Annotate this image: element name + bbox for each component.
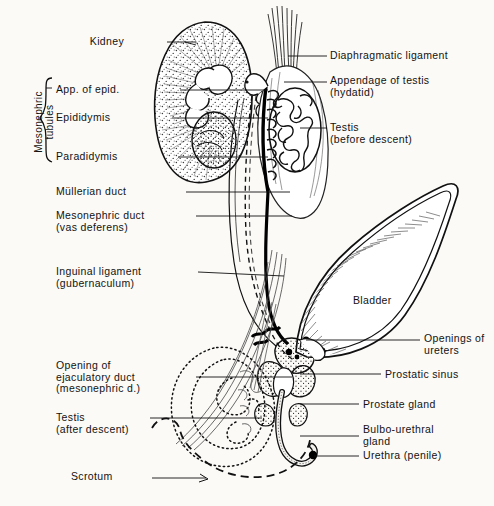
label-urethra-penile: Urethra (penile) (363, 450, 442, 462)
label-kidney: Kidney (44, 36, 124, 48)
label-inguinal-ligament: Inguinal ligament (gubernaculum) (56, 266, 141, 289)
label-prostate-gland: Prostate gland (363, 399, 436, 411)
label-testis-before-descent: Testis (before descent) (330, 122, 412, 145)
label-testis-after-descent: Testis (after descent) (56, 412, 129, 435)
label-bladder: Bladder (353, 295, 392, 307)
label-scrotum: Scrotum (71, 471, 113, 483)
label-opening-of-ejaculatory-duct: Opening of ejaculatory duct (mesonephric… (56, 360, 140, 395)
label-appendage-of-testis: Appendage of testis (hydatid) (330, 75, 429, 98)
label-diaphragmatic-ligament: Diaphragmatic ligament (330, 50, 448, 62)
label-paradidymis: Paradidymis (56, 151, 118, 163)
label-mullerian-duct: Müllerian duct (56, 186, 126, 198)
label-openings-of-ureters: Openings of ureters (424, 333, 484, 356)
label-mesonephric-duct: Mesonephric duct (vas deferens) (56, 210, 144, 233)
testis-before-descent (245, 66, 328, 218)
label-bulbo-urethral-gland: Bulbo-urethral gland (363, 424, 434, 447)
scrotum-outline (152, 418, 310, 477)
mesonephric-tubules-group-label: Mesonephric tubules (33, 74, 55, 170)
label-prostatic-sinus: Prostatic sinus (385, 369, 459, 381)
anatomical-figure: Mesonephric tubules Kidney App. of epid.… (0, 0, 494, 506)
label-app-of-epid: App. of epid. (56, 84, 120, 96)
label-epididymis: Epididymis (56, 112, 110, 124)
